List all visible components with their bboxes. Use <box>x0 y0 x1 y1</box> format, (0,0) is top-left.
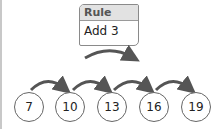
sequence-item: 13 <box>97 92 127 122</box>
sequence-item: 7 <box>14 92 44 122</box>
sequence-item: 19 <box>181 92 211 122</box>
sequence-item: 16 <box>139 92 169 122</box>
sequence-item: 10 <box>55 92 85 122</box>
